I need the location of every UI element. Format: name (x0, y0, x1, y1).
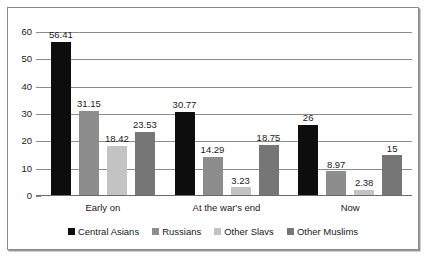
y-tick-label: 50 (21, 55, 32, 65)
legend-swatch-icon (287, 228, 294, 235)
y-tick-mark (36, 196, 41, 197)
bar: 18.42 (107, 146, 127, 196)
bar-value-label: 31.15 (77, 99, 101, 109)
bar-value-label: 26 (303, 113, 314, 123)
x-axis-line (36, 195, 412, 196)
bar: 23.53 (135, 132, 155, 196)
bar: 18.75 (259, 145, 279, 196)
plot-area: 0102030405060 56.4131.1518.4223.5330.771… (41, 32, 412, 196)
legend-item[interactable]: Central Asians (68, 227, 139, 237)
y-tick-mark (36, 59, 41, 60)
bar-value-label: 30.77 (173, 100, 197, 110)
x-axis-label: At the war's end (193, 203, 261, 213)
bar: 31.15 (79, 111, 99, 196)
legend-swatch-icon (152, 228, 159, 235)
legend-item[interactable]: Russians (152, 227, 201, 237)
y-tick-label: 30 (21, 109, 32, 119)
legend-item[interactable]: Other Slavs (214, 227, 274, 237)
y-tick-label: 20 (21, 137, 32, 147)
bar-value-label: 18.42 (105, 134, 129, 144)
y-tick-mark (36, 141, 41, 142)
chart-legend: Central AsiansRussiansOther SlavsOther M… (8, 227, 418, 237)
bar: 14.29 (203, 157, 223, 196)
legend-swatch-icon (68, 228, 75, 235)
gridline (41, 32, 412, 33)
y-tick-label: 60 (21, 27, 32, 37)
bar-value-label: 18.75 (257, 133, 281, 143)
bar-value-label: 23.53 (133, 120, 157, 130)
bar-value-label: 3.23 (231, 176, 250, 186)
x-axis-label: Early on (85, 203, 120, 213)
legend-label: Other Muslims (297, 227, 358, 237)
bar-value-label: 2.38 (355, 178, 374, 188)
bar: 26 (298, 125, 318, 196)
legend-label: Central Asians (78, 227, 139, 237)
legend-label: Russians (162, 227, 201, 237)
chart-frame: 0102030405060 56.4131.1518.4223.5330.771… (7, 7, 419, 250)
bar: 8.97 (326, 171, 346, 196)
gridline (41, 87, 412, 88)
y-tick-mark (36, 87, 41, 88)
y-tick-mark (36, 114, 41, 115)
y-tick-mark (36, 169, 41, 170)
legend-swatch-icon (214, 228, 221, 235)
legend-item[interactable]: Other Muslims (287, 227, 358, 237)
y-tick-label: 40 (21, 82, 32, 92)
y-tick-label: 0 (27, 191, 32, 201)
bar: 30.77 (175, 112, 195, 196)
bar-value-label: 8.97 (327, 160, 346, 170)
gridline (41, 59, 412, 60)
bar-value-label: 56.41 (49, 30, 73, 40)
bar: 56.41 (51, 42, 71, 196)
bar: 15 (382, 155, 402, 196)
y-tick-label: 10 (21, 164, 32, 174)
x-axis-label: Now (341, 203, 360, 213)
y-tick-mark (36, 32, 41, 33)
legend-label: Other Slavs (224, 227, 274, 237)
bar-value-label: 15 (387, 144, 398, 154)
bar-value-label: 14.29 (201, 145, 225, 155)
